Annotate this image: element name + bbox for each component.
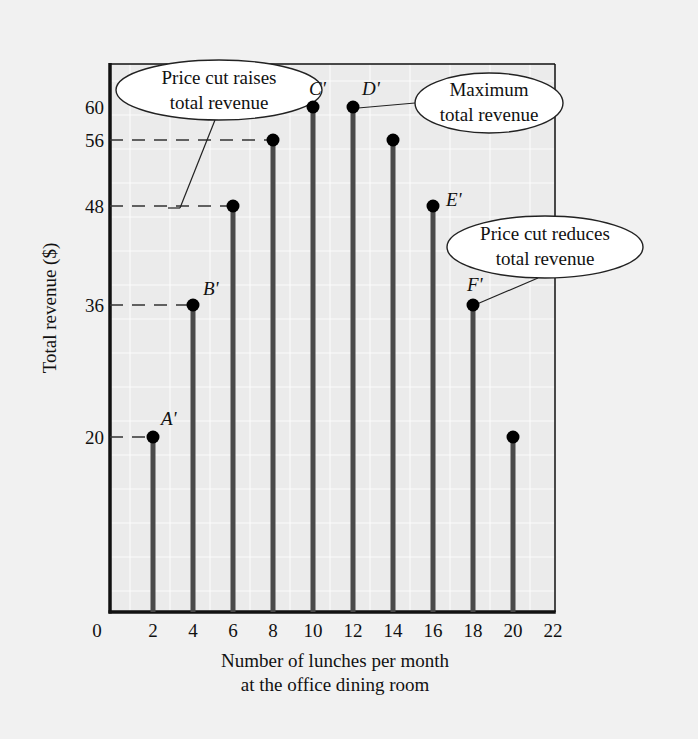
x-tick-label: 8: [268, 620, 278, 641]
point-label: F': [466, 274, 484, 295]
point-label: A': [159, 408, 178, 429]
point-label: B': [203, 278, 220, 299]
x-tick-label: 4: [188, 620, 198, 641]
callout-text: Price cut raises: [161, 67, 276, 88]
data-point-dot: [307, 101, 320, 114]
y-axis-title: Total revenue ($): [39, 243, 61, 374]
y-tick-label: 60: [85, 97, 104, 118]
y-tick-label: 20: [85, 427, 104, 448]
x-axis-ticks: 0246810121416182022: [92, 620, 562, 641]
point-label: E': [445, 189, 463, 210]
callout-text: total revenue: [496, 248, 595, 269]
x-tick-label: 16: [424, 620, 443, 641]
data-point-dot: [467, 299, 480, 312]
stem-chart-svg: Price cut raisestotal revenueMaximumtota…: [0, 0, 698, 739]
y-tick-label: 36: [85, 295, 104, 316]
plot-area: [110, 64, 555, 612]
plot-background: [110, 64, 555, 612]
x-axis-title: Number of lunches per month: [221, 650, 449, 671]
data-point-dot: [387, 134, 400, 147]
callout-text: Maximum: [449, 79, 528, 100]
chart: Price cut raisestotal revenueMaximumtota…: [0, 0, 698, 739]
callout-text: total revenue: [170, 92, 269, 113]
data-point-dot: [147, 431, 160, 444]
point-label: C': [309, 78, 327, 99]
callout-text: total revenue: [440, 104, 539, 125]
data-point-dot: [347, 101, 360, 114]
x-tick-label: 14: [384, 620, 404, 641]
x-tick-label: 20: [504, 620, 523, 641]
x-tick-label: 6: [228, 620, 238, 641]
data-point-dot: [427, 200, 440, 213]
x-tick-label: 10: [304, 620, 323, 641]
data-point-dot: [507, 431, 520, 444]
callout-text: Price cut reduces: [480, 223, 610, 244]
x-tick-label: 18: [464, 620, 483, 641]
y-tick-label: 56: [85, 130, 104, 151]
data-point-dot: [187, 299, 200, 312]
x-tick-label: 0: [92, 620, 102, 641]
y-axis-ticks: 2036485660: [85, 97, 104, 448]
x-tick-label: 2: [148, 620, 158, 641]
x-tick-label: 22: [544, 620, 563, 641]
y-tick-label: 48: [85, 196, 104, 217]
data-point-dot: [227, 200, 240, 213]
data-point-dot: [267, 134, 280, 147]
x-tick-label: 12: [344, 620, 363, 641]
point-label: D': [361, 78, 381, 99]
x-axis-title: at the office dining room: [241, 674, 430, 695]
